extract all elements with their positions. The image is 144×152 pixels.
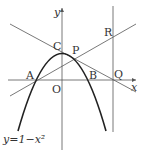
diagram-canvas: y x O A B C P Q R y=1−x² <box>0 0 144 152</box>
point-B-label: B <box>89 69 97 82</box>
point-P-label: P <box>72 44 80 57</box>
y-axis-arrow-icon <box>60 8 64 12</box>
point-C-label: C <box>53 40 61 53</box>
y-axis-label: y <box>53 6 61 19</box>
origin-label: O <box>52 83 61 96</box>
point-A-label: A <box>25 69 35 82</box>
curve-equation-label: y=1−x² <box>2 133 45 146</box>
point-Q-label: Q <box>114 68 123 81</box>
x-axis-label: x <box>131 81 138 94</box>
point-R-label: R <box>104 26 113 39</box>
line-APR <box>10 24 136 96</box>
